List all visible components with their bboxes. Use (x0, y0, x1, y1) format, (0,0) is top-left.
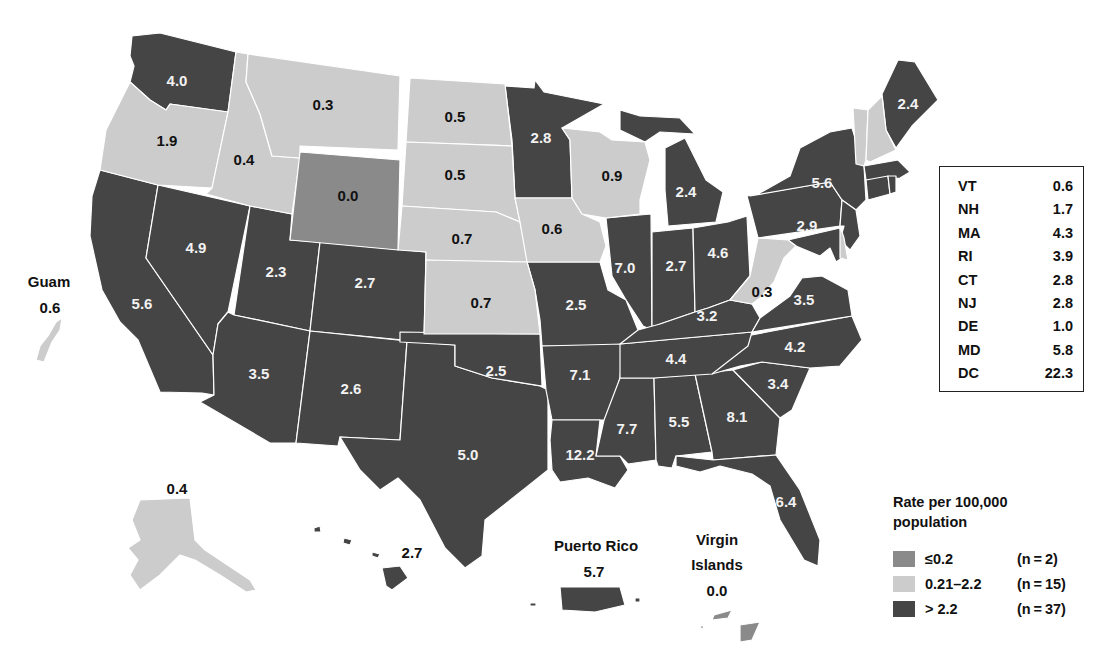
label-nc: 4.2 (785, 338, 806, 355)
label-ar: 7.1 (570, 366, 591, 383)
state-rate: 0.6 (1053, 175, 1073, 198)
northeast-states-table: VT0.6 NH1.7 MA4.3 RI3.9 CT2.8 NJ2.8 DE1.… (939, 166, 1084, 392)
label-ia: 0.6 (542, 220, 563, 237)
table-row: DC22.3 (958, 362, 1073, 385)
puerto-rico-value: 5.7 (584, 563, 605, 580)
label-or: 1.9 (157, 132, 178, 149)
legend-item-high: > 2.2 (n = 37) (893, 596, 1103, 621)
table-row: NJ2.8 (958, 292, 1073, 315)
label-ky: 3.2 (697, 307, 718, 324)
legend-range: > 2.2 (925, 601, 1017, 617)
label-al: 5.5 (669, 413, 690, 430)
label-ga: 8.1 (727, 408, 748, 425)
label-mt: 0.3 (313, 96, 334, 113)
label-id: 0.4 (234, 151, 256, 168)
label-co: 2.7 (355, 274, 376, 291)
label-wa: 4.0 (167, 72, 188, 89)
label-ks: 0.7 (471, 294, 492, 311)
territory-puerto-rico[interactable] (530, 587, 640, 612)
state-abbr: CT (958, 269, 977, 292)
legend-swatch-mid (893, 576, 915, 592)
state-hi[interactable] (314, 526, 408, 590)
label-tx: 5.0 (458, 446, 479, 463)
label-oh: 4.6 (708, 244, 729, 261)
label-ms: 7.7 (617, 420, 638, 437)
label-me: 2.4 (898, 95, 920, 112)
state-co[interactable] (310, 242, 426, 342)
label-ut: 2.3 (266, 263, 287, 280)
table-row: MD5.8 (958, 339, 1073, 362)
virgin-islands-name-2: Islands (691, 556, 743, 573)
legend-item-mid: 0.21–2.2 (n = 15) (893, 571, 1103, 596)
state-abbr: RI (958, 245, 973, 268)
legend-count: (n = 37) (1017, 601, 1066, 617)
legend-count: (n = 2) (1017, 551, 1058, 567)
label-ak: 0.4 (167, 480, 189, 497)
legend-title-line2: population (893, 512, 1103, 532)
guam-value: 0.6 (40, 299, 61, 316)
label-mi: 2.4 (676, 183, 698, 200)
label-il: 7.0 (615, 259, 636, 276)
virgin-islands-value: 0.0 (707, 582, 728, 599)
state-abbr: DE (958, 315, 978, 338)
label-la: 12.2 (565, 446, 594, 463)
state-abbr: DC (958, 362, 979, 385)
label-in: 2.7 (666, 257, 687, 274)
label-wv: 0.3 (752, 283, 773, 300)
label-wy: 0.0 (338, 187, 359, 204)
state-rate: 22.3 (1045, 362, 1073, 385)
state-rate: 3.9 (1053, 245, 1073, 268)
label-ca: 5.6 (132, 295, 153, 312)
label-fl: 6.4 (776, 493, 798, 510)
map-legend: Rate per 100,000 population ≤0.2 (n = 2)… (893, 492, 1103, 621)
state-abbr: VT (958, 175, 977, 198)
label-hi: 2.7 (402, 544, 423, 561)
legend-item-low: ≤0.2 (n = 2) (893, 546, 1103, 571)
table-row: VT0.6 (958, 175, 1073, 198)
state-abbr: NH (958, 198, 979, 221)
table-row: RI3.9 (958, 245, 1073, 268)
state-ri[interactable] (888, 176, 896, 194)
state-ct[interactable] (866, 176, 890, 200)
table-row: CT2.8 (958, 269, 1073, 292)
label-nv: 4.9 (186, 239, 207, 256)
label-va: 3.5 (794, 291, 815, 308)
label-wi: 0.9 (602, 167, 623, 184)
label-sd: 0.5 (445, 166, 466, 183)
legend-swatch-low (893, 551, 915, 567)
label-mn: 2.8 (531, 129, 552, 146)
territory-guam[interactable] (36, 318, 62, 362)
state-abbr: MA (958, 222, 981, 245)
label-ok: 2.5 (486, 362, 507, 379)
label-nd: 0.5 (445, 108, 466, 125)
virgin-islands-name-1: Virgin (696, 531, 738, 548)
legend-range: 0.21–2.2 (925, 576, 1017, 592)
label-az: 3.5 (249, 365, 270, 382)
state-rate: 2.8 (1053, 292, 1073, 315)
state-fl[interactable] (676, 455, 820, 566)
label-tn: 4.4 (666, 350, 688, 367)
state-rate: 4.3 (1053, 222, 1073, 245)
state-ak[interactable] (128, 498, 256, 592)
puerto-rico-name: Puerto Rico (554, 537, 638, 554)
label-mo: 2.5 (566, 296, 587, 313)
legend-title-line1: Rate per 100,000 (893, 492, 1103, 512)
legend-range: ≤0.2 (925, 551, 1017, 567)
guam-name: Guam (28, 273, 71, 290)
table-row: DE1.0 (958, 315, 1073, 338)
legend-count: (n = 15) (1017, 576, 1066, 592)
label-pa: 2.9 (797, 217, 818, 234)
state-rate: 2.8 (1053, 269, 1073, 292)
state-abbr: NJ (958, 292, 977, 315)
state-rate: 5.8 (1053, 339, 1073, 362)
state-rate: 1.0 (1053, 315, 1073, 338)
territory-virgin-islands[interactable] (700, 610, 760, 642)
table-row: MA4.3 (958, 222, 1073, 245)
label-nm: 2.6 (341, 380, 362, 397)
label-ne: 0.7 (452, 230, 473, 247)
state-abbr: MD (958, 339, 981, 362)
label-sc: 3.4 (768, 375, 790, 392)
label-ny: 5.6 (812, 174, 833, 191)
table-row: NH1.7 (958, 198, 1073, 221)
legend-swatch-high (893, 601, 915, 617)
